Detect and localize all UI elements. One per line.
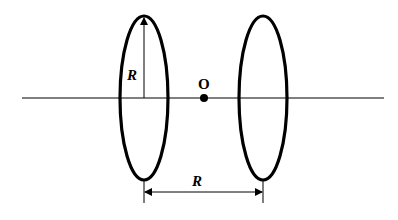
midpoint-dot (200, 94, 208, 102)
radius-label: R (126, 67, 137, 83)
separation-label: R (191, 173, 202, 189)
midpoint-label: O (198, 76, 210, 92)
two-rings-diagram: R O R (0, 0, 398, 220)
